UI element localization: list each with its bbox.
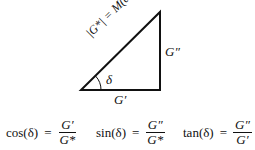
angle-arc bbox=[96, 76, 102, 90]
numerator: G′ bbox=[59, 118, 75, 133]
vertical-side-label: G″ bbox=[165, 44, 180, 60]
function-name: sin(δ) bbox=[96, 125, 126, 141]
cos-equation: cos(δ) = G′ G* bbox=[6, 118, 77, 147]
equals-sign: = bbox=[132, 125, 139, 141]
fraction: G″ G* bbox=[145, 118, 165, 147]
fraction: G″ G′ bbox=[233, 118, 252, 147]
denominator: G* bbox=[145, 133, 165, 147]
angle-label: δ bbox=[106, 72, 112, 88]
function-name: tan(δ) bbox=[183, 125, 214, 141]
numerator: G″ bbox=[146, 118, 165, 133]
sin-equation: sin(δ) = G″ G* bbox=[96, 118, 165, 147]
equals-sign: = bbox=[220, 125, 227, 141]
denominator: G* bbox=[57, 133, 77, 147]
tan-equation: tan(δ) = G″ G′ bbox=[183, 118, 252, 147]
fraction: G′ G* bbox=[57, 118, 77, 147]
denominator: G′ bbox=[234, 133, 250, 147]
horizontal-side-label: G′ bbox=[114, 92, 126, 108]
numerator: G″ bbox=[233, 118, 252, 133]
function-name: cos(δ) bbox=[6, 125, 38, 141]
equals-sign: = bbox=[44, 125, 51, 141]
equations-row: cos(δ) = G′ G* sin(δ) = G″ G* tan(δ) = G… bbox=[0, 118, 255, 150]
